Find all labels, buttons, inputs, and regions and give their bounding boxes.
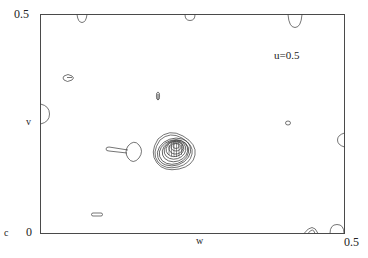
x-axis-max-tick-label: 0.5 xyxy=(344,236,359,248)
y-axis-title: v xyxy=(26,117,31,127)
y-axis-max-tick-label: 0.5 xyxy=(14,8,29,20)
section-annotation: u=0.5 xyxy=(274,50,299,61)
corner-axis-label: c xyxy=(4,228,8,238)
contour-map-figure xyxy=(0,0,368,258)
x-axis-title: w xyxy=(196,236,203,246)
x-axis-origin-tick-label: 0 xyxy=(26,226,32,238)
figure-background xyxy=(0,0,368,258)
